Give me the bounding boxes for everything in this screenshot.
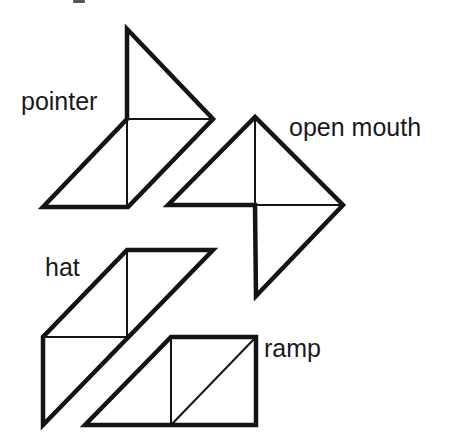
ramp-inner-diagonal: [171, 337, 256, 425]
pointer-label: pointer: [21, 87, 97, 115]
ramp-label: ramp: [264, 334, 321, 362]
shape-open-mouth: open mouth: [168, 113, 421, 296]
tangram-shapes-diagram: pointer open mouth hat ramp: [0, 0, 471, 447]
open-mouth-label: open mouth: [289, 113, 421, 141]
hat-label: hat: [45, 253, 80, 281]
cropped-title-fragment: [73, 0, 85, 3]
shape-pointer: pointer: [21, 29, 213, 207]
